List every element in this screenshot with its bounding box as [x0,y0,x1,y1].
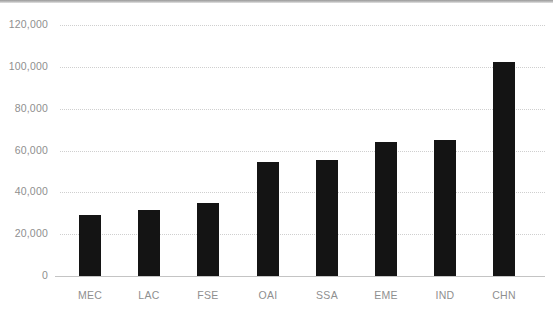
gridline [60,109,545,110]
bar [316,160,338,276]
x-axis-tick-label: LAC [119,290,179,301]
y-axis-tick-label: 120,000 [0,19,48,30]
bar [197,203,219,276]
gridline [60,192,545,193]
bar-chart: 020,00040,00060,00080,000100,000120,000M… [0,0,553,319]
y-axis-tick-label: 40,000 [0,186,48,197]
x-axis-tick-label: SSA [297,290,357,301]
x-axis-tick-label: OAI [238,290,298,301]
x-axis-tick-label: FSE [178,290,238,301]
y-axis-tick-label: 80,000 [0,103,48,114]
y-axis-tick-label: 20,000 [0,228,48,239]
x-axis-tick-label: EME [356,290,416,301]
y-axis-tick-label: 60,000 [0,145,48,156]
bar [138,210,160,276]
gridline [60,67,545,68]
y-axis-tick-label: 0 [0,270,48,281]
bar [79,215,101,276]
x-axis-baseline [55,276,545,277]
bar [257,162,279,276]
bar [434,140,456,276]
gridline [60,234,545,235]
bar [493,62,515,276]
bar [375,142,397,276]
gridline [60,151,545,152]
y-axis-tick-label: 100,000 [0,61,48,72]
x-axis-tick-label: IND [415,290,475,301]
x-axis-tick-label: CHN [474,290,534,301]
gridline [60,25,545,26]
plot-area: 020,00040,00060,00080,000100,000120,000M… [0,0,553,319]
x-axis-tick-label: MEC [60,290,120,301]
